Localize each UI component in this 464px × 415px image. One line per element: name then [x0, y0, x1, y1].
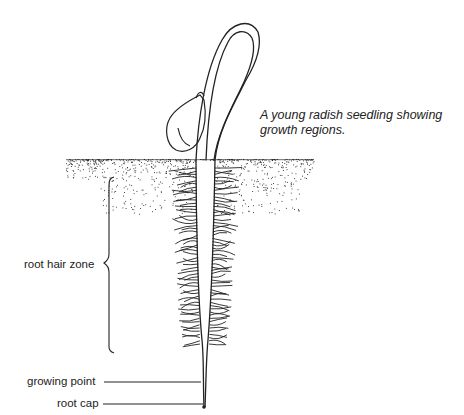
- seedling-stem: [196, 24, 260, 160]
- root-tip: [202, 405, 206, 409]
- label-root-cap: root cap: [57, 397, 99, 410]
- root-hairs: [169, 168, 243, 347]
- seedling-illustration: [0, 0, 464, 415]
- label-root-hair-zone: root hair zone: [24, 258, 94, 271]
- seedling-diagram: A young radish seedling showing growth r…: [0, 0, 464, 415]
- caption-line-2: growth regions.: [260, 123, 464, 138]
- figure-caption: A young radish seedling showing growth r…: [260, 108, 464, 138]
- root-hair-zone-bracket: [104, 177, 114, 353]
- label-growing-point: growing point: [27, 375, 95, 388]
- caption-line-1: A young radish seedling showing: [260, 108, 464, 123]
